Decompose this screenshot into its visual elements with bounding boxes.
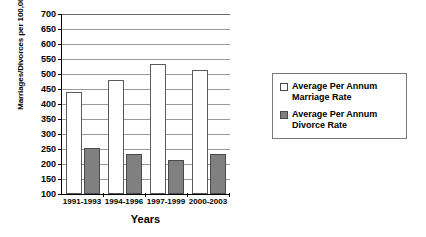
legend-swatch-divorce-icon xyxy=(280,111,288,119)
x-axis-tick-label: 1991-1993 xyxy=(63,197,101,206)
x-axis-tick xyxy=(103,193,104,197)
legend-label: Average Per Annum Marriage Rate xyxy=(292,81,377,103)
y-axis-title: Marriages/Divorces per 100,000 xyxy=(16,0,25,132)
bar-marriage xyxy=(66,92,82,194)
y-axis-tick xyxy=(58,59,62,60)
y-axis-tick xyxy=(58,74,62,75)
y-axis-tick xyxy=(58,134,62,135)
bar-group xyxy=(150,14,184,194)
y-axis-tick-label: 500 xyxy=(41,69,56,79)
x-axis-tick-labels: 1991-19931994-19961997-19992000-2003 xyxy=(61,197,230,211)
y-axis-tick xyxy=(58,149,62,150)
y-axis-tick-label: 250 xyxy=(41,144,56,154)
y-axis-tick-label: 450 xyxy=(41,84,56,94)
bar-divorce xyxy=(84,148,100,195)
bar-group xyxy=(192,14,226,194)
legend-item: Average Per Annum Marriage Rate xyxy=(280,81,400,103)
y-axis-tick-label: 150 xyxy=(41,174,56,184)
y-axis-tick-labels: 100150200250300350400450500550600650700 xyxy=(28,14,56,195)
bar-divorce xyxy=(210,154,226,194)
chart-legend: Average Per Annum Marriage RateAverage P… xyxy=(272,73,407,139)
bar-chart: Marriages/Divorces per 100,000 100150200… xyxy=(0,0,426,237)
bar-marriage xyxy=(108,80,124,194)
y-axis-tick xyxy=(58,89,62,90)
x-axis-tick xyxy=(229,193,230,197)
y-axis-tick-label: 350 xyxy=(41,114,56,124)
y-axis-tick xyxy=(58,104,62,105)
bar-group xyxy=(66,14,100,194)
bar-marriage xyxy=(192,70,208,195)
y-axis-tick xyxy=(58,179,62,180)
legend-item: Average Per Annum Divorce Rate xyxy=(280,109,400,131)
y-axis-tick xyxy=(58,14,62,15)
y-axis-tick-label: 700 xyxy=(41,9,56,19)
legend-swatch-marriage-icon xyxy=(280,83,288,91)
bar-divorce xyxy=(168,160,184,194)
x-axis-tick-label: 2000-2003 xyxy=(189,197,227,206)
x-axis-tick-label: 1997-1999 xyxy=(147,197,185,206)
y-axis-tick-label: 550 xyxy=(41,54,56,64)
y-axis-tick-label: 600 xyxy=(41,39,56,49)
y-axis-tick-label: 400 xyxy=(41,99,56,109)
y-axis-tick xyxy=(58,194,62,195)
x-axis-tick xyxy=(187,193,188,197)
y-axis-tick-label: 300 xyxy=(41,129,56,139)
x-axis-tick xyxy=(145,193,146,197)
y-axis-tick xyxy=(58,164,62,165)
y-axis-tick xyxy=(58,44,62,45)
x-axis-tick-label: 1994-1996 xyxy=(105,197,143,206)
x-axis-title: Years xyxy=(61,213,230,225)
y-axis-tick xyxy=(58,119,62,120)
y-axis-tick-label: 200 xyxy=(41,159,56,169)
y-axis-tick xyxy=(58,29,62,30)
bar-group xyxy=(108,14,142,194)
legend-label: Average Per Annum Divorce Rate xyxy=(292,109,377,131)
y-axis-tick-label: 100 xyxy=(41,189,56,199)
bar-marriage xyxy=(150,64,166,195)
plot-area xyxy=(61,14,230,195)
y-axis-tick-label: 650 xyxy=(41,24,56,34)
bar-divorce xyxy=(126,154,142,194)
